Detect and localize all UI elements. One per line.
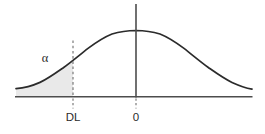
alpha-shaded-region <box>16 60 73 97</box>
distribution-plot: α DL 0 <box>0 0 265 134</box>
normal-distribution-figure: α DL 0 <box>0 0 265 134</box>
alpha-label: α <box>42 51 49 65</box>
critical-value-label: DL <box>66 111 81 123</box>
center-label: 0 <box>133 111 139 123</box>
